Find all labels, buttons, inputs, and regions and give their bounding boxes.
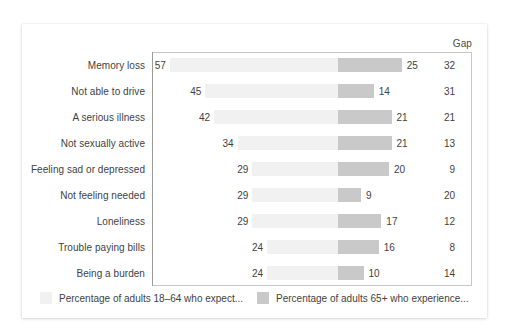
bar-right-value: 20 bbox=[394, 164, 405, 175]
bar-right bbox=[338, 162, 389, 176]
gap-value: 8 bbox=[449, 242, 455, 253]
chart-rows: Memory loss572532Not able to drive451431… bbox=[22, 52, 487, 286]
category-label: Loneliness bbox=[22, 216, 145, 227]
bar-left bbox=[205, 84, 338, 98]
legend-swatch-icon bbox=[40, 292, 52, 304]
bar-track: 451431 bbox=[153, 78, 471, 104]
bar-left bbox=[214, 110, 338, 124]
bar-track: 241014 bbox=[153, 260, 471, 286]
bar-track: 29920 bbox=[153, 182, 471, 208]
legend-label: Percentage of adults 18–64 who expect... bbox=[59, 293, 243, 304]
legend-item[interactable]: Percentage of adults 18–64 who expect... bbox=[40, 292, 243, 304]
bar-left-value: 45 bbox=[181, 86, 201, 97]
chart-row: Not sexually active342113 bbox=[22, 130, 487, 156]
gap-value: 31 bbox=[444, 86, 455, 97]
chart-screenshot: Gap Memory loss572532Not able to drive45… bbox=[0, 0, 505, 328]
chart-card: Gap Memory loss572532Not able to drive45… bbox=[22, 24, 487, 318]
gap-value: 13 bbox=[444, 138, 455, 149]
chart-row: Not feeling needed29920 bbox=[22, 182, 487, 208]
bar-left bbox=[252, 214, 338, 228]
category-label: Not feeling needed bbox=[22, 190, 145, 201]
bar-left-value: 29 bbox=[228, 190, 248, 201]
bar-left-value: 29 bbox=[228, 164, 248, 175]
gap-value: 21 bbox=[444, 112, 455, 123]
bar-right bbox=[338, 266, 364, 280]
bar-right-value: 21 bbox=[397, 138, 408, 149]
gap-value: 12 bbox=[444, 216, 455, 227]
bar-track: 572532 bbox=[153, 52, 471, 78]
category-label: Trouble paying bills bbox=[22, 242, 145, 253]
gap-value: 20 bbox=[444, 190, 455, 201]
bar-right bbox=[338, 110, 392, 124]
bar-right-value: 21 bbox=[397, 112, 408, 123]
bar-right bbox=[338, 136, 392, 150]
bar-track: 422121 bbox=[153, 104, 471, 130]
bar-left-value: 24 bbox=[243, 242, 263, 253]
bar-left-value: 42 bbox=[190, 112, 210, 123]
category-label: Not able to drive bbox=[22, 86, 145, 97]
legend-label: Percentage of adults 65+ who experience.… bbox=[276, 293, 469, 304]
bar-right-value: 16 bbox=[384, 242, 395, 253]
chart-row: Trouble paying bills24168 bbox=[22, 234, 487, 260]
bar-track: 29209 bbox=[153, 156, 471, 182]
bar-right bbox=[338, 214, 381, 228]
bar-right-value: 9 bbox=[366, 190, 372, 201]
category-label: Feeling sad or depressed bbox=[22, 164, 145, 175]
bar-right-value: 17 bbox=[386, 216, 397, 227]
gap-column-header: Gap bbox=[453, 38, 472, 49]
bar-left bbox=[252, 162, 338, 176]
gap-value: 32 bbox=[444, 60, 455, 71]
category-label: Memory loss bbox=[22, 60, 145, 71]
bar-track: 24168 bbox=[153, 234, 471, 260]
gap-value: 9 bbox=[449, 164, 455, 175]
category-label: Being a burden bbox=[22, 268, 145, 279]
bar-left bbox=[267, 240, 338, 254]
category-label: Not sexually active bbox=[22, 138, 145, 149]
bar-track: 342113 bbox=[153, 130, 471, 156]
bar-right bbox=[338, 240, 379, 254]
category-label: A serious illness bbox=[22, 112, 145, 123]
bar-left bbox=[252, 188, 338, 202]
chart-row: Loneliness291712 bbox=[22, 208, 487, 234]
bar-left-value: 34 bbox=[214, 138, 234, 149]
legend-item[interactable]: Percentage of adults 65+ who experience.… bbox=[257, 292, 469, 304]
bar-left bbox=[170, 58, 338, 72]
bar-left bbox=[238, 136, 338, 150]
chart-row: Memory loss572532 bbox=[22, 52, 487, 78]
bar-left bbox=[267, 266, 338, 280]
chart-legend: Percentage of adults 18–64 who expect...… bbox=[22, 292, 487, 304]
bar-right bbox=[338, 58, 402, 72]
legend-swatch-icon bbox=[257, 292, 269, 304]
chart-row: Not able to drive451431 bbox=[22, 78, 487, 104]
gap-value: 14 bbox=[444, 268, 455, 279]
bar-left-value: 24 bbox=[243, 268, 263, 279]
bar-right-value: 10 bbox=[369, 268, 380, 279]
chart-row: Being a burden241014 bbox=[22, 260, 487, 286]
chart-row: Feeling sad or depressed29209 bbox=[22, 156, 487, 182]
bar-right-value: 25 bbox=[407, 60, 418, 71]
bar-right bbox=[338, 84, 374, 98]
bar-track: 291712 bbox=[153, 208, 471, 234]
bar-right bbox=[338, 188, 361, 202]
bar-right-value: 14 bbox=[379, 86, 390, 97]
chart-row: A serious illness422121 bbox=[22, 104, 487, 130]
bar-left-value: 57 bbox=[146, 60, 166, 71]
bar-left-value: 29 bbox=[228, 216, 248, 227]
